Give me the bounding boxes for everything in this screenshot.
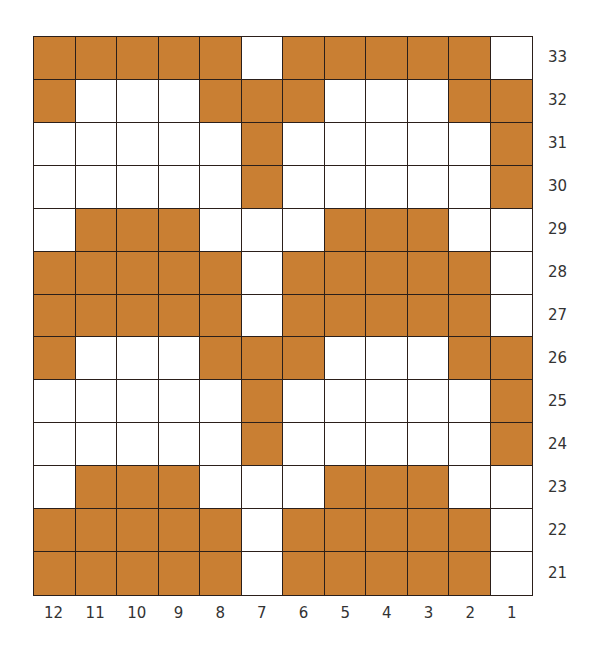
empty-stitch-cell bbox=[449, 209, 491, 252]
filled-stitch-cell bbox=[283, 509, 325, 552]
filled-stitch-cell bbox=[34, 80, 76, 123]
filled-stitch-cell bbox=[325, 37, 367, 80]
row-label: 22 bbox=[548, 523, 567, 538]
empty-stitch-cell bbox=[408, 80, 450, 123]
empty-stitch-cell bbox=[159, 380, 201, 423]
empty-stitch-cell bbox=[159, 423, 201, 466]
empty-stitch-cell bbox=[283, 380, 325, 423]
filled-stitch-cell bbox=[366, 209, 408, 252]
row-label: 31 bbox=[548, 136, 567, 151]
filled-stitch-cell bbox=[242, 166, 284, 209]
empty-stitch-cell bbox=[76, 123, 118, 166]
filled-stitch-cell bbox=[366, 552, 408, 595]
filled-stitch-cell bbox=[366, 509, 408, 552]
empty-stitch-cell bbox=[366, 166, 408, 209]
filled-stitch-cell bbox=[200, 295, 242, 338]
empty-stitch-cell bbox=[491, 552, 533, 595]
filled-stitch-cell bbox=[76, 37, 118, 80]
empty-stitch-cell bbox=[366, 337, 408, 380]
filled-stitch-cell bbox=[325, 295, 367, 338]
filled-stitch-cell bbox=[76, 252, 118, 295]
empty-stitch-cell bbox=[491, 209, 533, 252]
filled-stitch-cell bbox=[242, 123, 284, 166]
filled-stitch-cell bbox=[449, 252, 491, 295]
empty-stitch-cell bbox=[159, 166, 201, 209]
row-label: 23 bbox=[548, 480, 567, 495]
empty-stitch-cell bbox=[325, 80, 367, 123]
row-label: 21 bbox=[548, 566, 567, 581]
empty-stitch-cell bbox=[242, 37, 284, 80]
filled-stitch-cell bbox=[491, 166, 533, 209]
column-label: 11 bbox=[75, 606, 116, 621]
row-label: 25 bbox=[548, 394, 567, 409]
empty-stitch-cell bbox=[449, 466, 491, 509]
filled-stitch-cell bbox=[325, 466, 367, 509]
empty-stitch-cell bbox=[242, 466, 284, 509]
filled-stitch-cell bbox=[159, 552, 201, 595]
empty-stitch-cell bbox=[366, 423, 408, 466]
filled-stitch-cell bbox=[325, 209, 367, 252]
empty-stitch-cell bbox=[325, 166, 367, 209]
row-label: 32 bbox=[548, 93, 567, 108]
empty-stitch-cell bbox=[117, 166, 159, 209]
empty-stitch-cell bbox=[34, 123, 76, 166]
empty-stitch-cell bbox=[491, 295, 533, 338]
empty-stitch-cell bbox=[200, 380, 242, 423]
filled-stitch-cell bbox=[491, 337, 533, 380]
column-label: 9 bbox=[158, 606, 199, 621]
empty-stitch-cell bbox=[325, 123, 367, 166]
empty-stitch-cell bbox=[449, 166, 491, 209]
empty-stitch-cell bbox=[34, 423, 76, 466]
filled-stitch-cell bbox=[76, 466, 118, 509]
filled-stitch-cell bbox=[117, 552, 159, 595]
empty-stitch-cell bbox=[76, 80, 118, 123]
empty-stitch-cell bbox=[159, 123, 201, 166]
filled-stitch-cell bbox=[408, 466, 450, 509]
filled-stitch-cell bbox=[491, 80, 533, 123]
empty-stitch-cell bbox=[117, 423, 159, 466]
empty-stitch-cell bbox=[491, 37, 533, 80]
filled-stitch-cell bbox=[159, 466, 201, 509]
empty-stitch-cell bbox=[408, 166, 450, 209]
row-label: 30 bbox=[548, 179, 567, 194]
filled-stitch-cell bbox=[159, 252, 201, 295]
empty-stitch-cell bbox=[408, 337, 450, 380]
colorwork-chart-grid bbox=[33, 36, 533, 596]
empty-stitch-cell bbox=[242, 252, 284, 295]
filled-stitch-cell bbox=[34, 552, 76, 595]
empty-stitch-cell bbox=[76, 380, 118, 423]
empty-stitch-cell bbox=[159, 80, 201, 123]
filled-stitch-cell bbox=[242, 423, 284, 466]
empty-stitch-cell bbox=[200, 466, 242, 509]
filled-stitch-cell bbox=[491, 380, 533, 423]
filled-stitch-cell bbox=[283, 252, 325, 295]
empty-stitch-cell bbox=[366, 123, 408, 166]
filled-stitch-cell bbox=[325, 509, 367, 552]
empty-stitch-cell bbox=[76, 337, 118, 380]
empty-stitch-cell bbox=[283, 423, 325, 466]
filled-stitch-cell bbox=[200, 252, 242, 295]
empty-stitch-cell bbox=[283, 466, 325, 509]
empty-stitch-cell bbox=[117, 80, 159, 123]
column-label: 5 bbox=[325, 606, 366, 621]
filled-stitch-cell bbox=[34, 509, 76, 552]
filled-stitch-cell bbox=[408, 509, 450, 552]
filled-stitch-cell bbox=[366, 252, 408, 295]
empty-stitch-cell bbox=[242, 509, 284, 552]
filled-stitch-cell bbox=[159, 295, 201, 338]
filled-stitch-cell bbox=[449, 337, 491, 380]
empty-stitch-cell bbox=[34, 166, 76, 209]
column-label: 10 bbox=[116, 606, 157, 621]
empty-stitch-cell bbox=[408, 380, 450, 423]
empty-stitch-cell bbox=[76, 166, 118, 209]
empty-stitch-cell bbox=[491, 252, 533, 295]
filled-stitch-cell bbox=[449, 295, 491, 338]
filled-stitch-cell bbox=[159, 37, 201, 80]
filled-stitch-cell bbox=[76, 552, 118, 595]
empty-stitch-cell bbox=[242, 552, 284, 595]
empty-stitch-cell bbox=[491, 466, 533, 509]
empty-stitch-cell bbox=[200, 123, 242, 166]
filled-stitch-cell bbox=[242, 380, 284, 423]
empty-stitch-cell bbox=[76, 423, 118, 466]
empty-stitch-cell bbox=[200, 166, 242, 209]
